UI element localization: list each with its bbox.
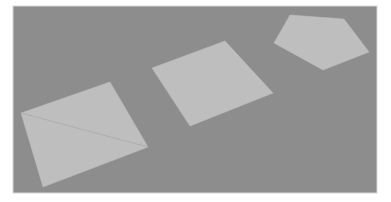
rendered-scene <box>0 0 391 202</box>
scene-canvas <box>0 0 391 202</box>
